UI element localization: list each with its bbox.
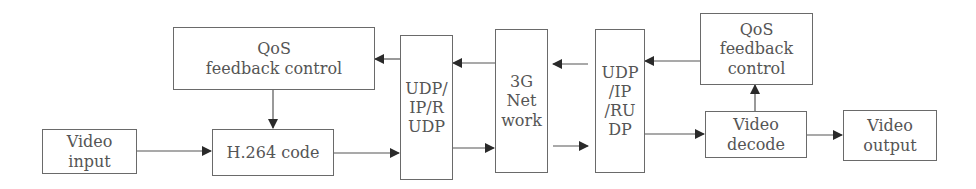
video-decode-line-1: Video [733, 115, 779, 134]
qos-left-line-1: QoS [257, 39, 291, 58]
udp-right-line-4: DP [608, 120, 632, 139]
video-input-line-2: input [68, 152, 110, 171]
udp-right-line-3: /RU [605, 101, 636, 120]
network-line-3: work [501, 111, 542, 130]
udp-left-line-2: IP/R [409, 98, 444, 117]
diagram-canvas: QoS feedback control Video input H.264 c… [0, 0, 976, 189]
network-line-2: Net [507, 91, 537, 110]
video-output-box: Video output [843, 110, 937, 161]
video-input-box: Video input [42, 129, 137, 174]
network-line-1: 3G [510, 72, 533, 91]
h264-code-box: H.264 code [212, 129, 334, 176]
connector-layer [0, 0, 976, 189]
qos-right-line-1: QoS [740, 20, 774, 39]
video-decode-box: Video decode [705, 111, 807, 158]
udp-left-line-1: UDP/ [405, 79, 447, 98]
qos-feedback-control-right-box: QoS feedback control [700, 13, 813, 85]
video-output-line-1: Video [867, 116, 913, 135]
udp-right-line-1: UDP [601, 63, 638, 82]
udp-ip-rudp-right-box: UDP /IP /RU DP [595, 29, 645, 173]
qos-right-line-2: feedback [720, 39, 794, 58]
h264-line-1: H.264 code [227, 143, 320, 162]
udp-right-line-2: /IP [609, 82, 631, 101]
qos-feedback-control-left-box: QoS feedback control [173, 27, 375, 90]
video-decode-line-2: decode [727, 135, 785, 154]
udp-ip-rudp-left-box: UDP/ IP/R UDP [400, 35, 453, 180]
qos-right-line-3: control [728, 59, 786, 78]
qos-left-line-2: feedback control [206, 59, 342, 78]
video-input-line-1: Video [67, 132, 113, 151]
udp-left-line-3: UDP [408, 117, 445, 136]
video-output-line-2: output [863, 136, 916, 155]
3g-network-box: 3G Net work [495, 29, 548, 173]
